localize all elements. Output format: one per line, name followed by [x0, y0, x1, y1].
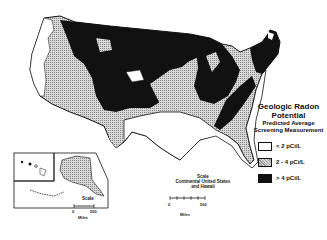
legend: Geologic Radon Potential Predicted Avera… — [250, 102, 327, 188]
legend-item-high: > 4 pCi/L — [258, 172, 327, 184]
aleutians — [30, 190, 64, 196]
legend-title-1: Geologic Radon — [250, 102, 327, 111]
scale-main-units: Miles — [180, 212, 190, 217]
region-high-ne — [250, 30, 280, 74]
legend-item-moderate: 2 - 4 pCi/L — [258, 156, 327, 168]
swatch-high-icon — [258, 174, 272, 183]
swatch-low-icon — [258, 142, 272, 151]
alaska-shape — [60, 156, 104, 196]
scale-main-start: 0 — [168, 202, 170, 207]
legend-subtitle-2: Screening Measurement — [250, 127, 327, 134]
hawaii-inset — [14, 153, 54, 181]
legend-subtitle-1: Predicted Average — [250, 120, 327, 127]
legend-title-2: Potential — [250, 111, 327, 120]
scale-main: Scale Continental United States and Hawa… — [168, 174, 238, 189]
scale-ak-end: 500 — [90, 209, 97, 214]
swatch-moderate-icon — [258, 158, 272, 167]
scale-alaska-title: Scale — [76, 196, 100, 201]
legend-item-low: < 2 pCi/L — [258, 140, 327, 152]
scale-ak-units: Miles — [78, 215, 88, 220]
scale-main-end: 500 — [200, 202, 207, 207]
scale-ak-start: 0 — [72, 209, 74, 214]
